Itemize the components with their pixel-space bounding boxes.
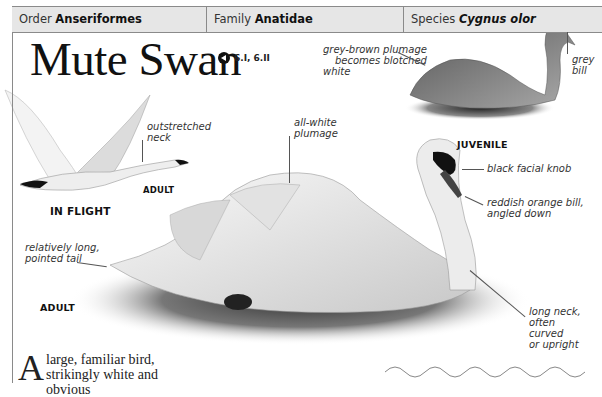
leader-line bbox=[289, 136, 290, 183]
leader-line bbox=[567, 32, 568, 54]
label-in-flight: IN FLIGHT bbox=[50, 205, 111, 217]
description-text: A large, familiar bird, strikingly white… bbox=[18, 352, 178, 397]
label-flight-adult: ADULT bbox=[143, 185, 174, 195]
annotation-juvenile-plumage: grey-brown plumage becomes blotched whit… bbox=[323, 44, 427, 77]
juvenile-swan-image bbox=[410, 22, 575, 108]
annotation-bill: reddish orange bill, angled down bbox=[487, 197, 584, 219]
species-value: Cygnus olor bbox=[459, 12, 536, 26]
page-title: Mute Swan bbox=[30, 36, 241, 83]
annotation-neck: long neck, often curved or upright bbox=[529, 306, 591, 350]
annotation-facial-knob: black facial knob bbox=[487, 163, 571, 174]
audio-reference[interactable]: 6.I, 6.II bbox=[218, 52, 270, 64]
species-cell: Species Cygnus olor bbox=[404, 7, 602, 32]
family-value: Anatidae bbox=[255, 12, 313, 26]
drop-cap: A bbox=[18, 353, 44, 383]
order-value: Anseriformes bbox=[55, 12, 142, 26]
taxonomy-header: Order Anseriformes Family Anatidae Speci… bbox=[12, 6, 602, 33]
wavy-divider bbox=[385, 367, 585, 377]
label-adult: ADULT bbox=[40, 302, 75, 313]
label-juvenile: JUVENILE bbox=[457, 139, 508, 150]
annotation-grey-bill: grey bill bbox=[572, 54, 595, 76]
annotation-tail: relatively long, pointed tail bbox=[25, 242, 100, 264]
annotation-outstretched-neck: outstretched neck bbox=[147, 121, 211, 143]
leader-line bbox=[462, 169, 484, 170]
speaker-icon[interactable] bbox=[218, 52, 230, 64]
page-border bbox=[12, 6, 13, 383]
family-cell: Family Anatidae bbox=[207, 7, 404, 32]
leader-line bbox=[142, 140, 143, 162]
audio-tracks: 6.I, 6.II bbox=[234, 53, 270, 63]
annotation-all-white-plumage: all-white plumage bbox=[294, 117, 338, 139]
order-cell: Order Anseriformes bbox=[12, 7, 207, 32]
